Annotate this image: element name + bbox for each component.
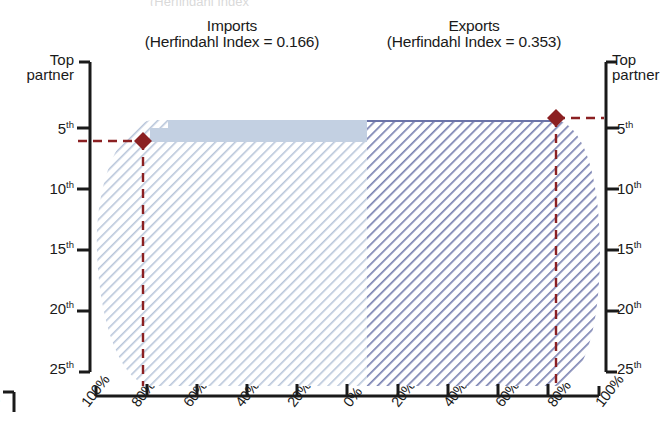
panel-title-exports-line2: (Herfindahl Index = 0.353) bbox=[340, 34, 608, 50]
panel-title-imports-line1: Imports bbox=[98, 18, 366, 34]
y-axis-left-label-top-partner: Top partner bbox=[2, 52, 74, 83]
y-left-5-sup: th bbox=[66, 119, 74, 130]
y-right-25-sup: th bbox=[634, 359, 642, 370]
x-axis-tick-label-3: 40% bbox=[232, 378, 262, 410]
y-right-10-sup: th bbox=[634, 179, 642, 190]
panel-title-exports-line1: Exports bbox=[340, 18, 608, 34]
exports-marker-diamond bbox=[547, 109, 565, 127]
y-axis-right-label-20th: 20th bbox=[617, 300, 670, 316]
x-axis-tick-label-10: 100% bbox=[592, 372, 627, 410]
y-axis-left-spine bbox=[77, 62, 90, 372]
y-left-20-sup: th bbox=[66, 299, 74, 310]
imports-marker-diamond bbox=[134, 132, 152, 150]
y-left-top-line2: partner bbox=[26, 66, 74, 83]
x-axis-tick-label-9: 80% bbox=[544, 378, 574, 410]
panel-title-imports: Imports (Herfindahl Index = 0.166) bbox=[98, 18, 366, 50]
x-axis-tick-label-4: 20% bbox=[284, 378, 314, 410]
x-axis-tick-label-2: 60% bbox=[180, 378, 210, 410]
y-right-top-line2: partner bbox=[612, 66, 660, 83]
y-right-25-num: 25 bbox=[617, 360, 634, 377]
y-axis-right-spine bbox=[606, 62, 619, 372]
imports-solid-staircase bbox=[232, 62, 367, 140]
x-axis-tick-label-5: 0% bbox=[340, 384, 365, 410]
y-left-10-num: 10 bbox=[49, 180, 66, 197]
y-right-20-sup: th bbox=[634, 299, 642, 310]
y-right-5-sup: th bbox=[625, 119, 633, 130]
y-axis-right-label-top-partner: Top partner bbox=[612, 52, 670, 83]
chart-canvas: (Herfindahl Index Imports (Herfindahl In… bbox=[0, 0, 670, 443]
cropped-bracket-fragment bbox=[3, 392, 14, 412]
exports-solid-staircase-steps bbox=[367, 62, 554, 122]
panel-title-exports: Exports (Herfindahl Index = 0.353) bbox=[340, 18, 608, 50]
exports-series-group bbox=[365, 60, 615, 400]
imports-series-group bbox=[90, 60, 370, 400]
cropped-top-text-fragment: (Herfindahl Index bbox=[150, 0, 570, 6]
y-axis-right-label-15th: 15th bbox=[617, 240, 670, 256]
y-left-10-sup: th bbox=[66, 179, 74, 190]
y-axis-left-label-15th: 15th bbox=[2, 240, 74, 256]
x-axis-tick-label-7: 40% bbox=[440, 378, 470, 410]
y-axis-right-label-5th: 5th bbox=[617, 120, 670, 136]
panel-title-imports-line2: (Herfindahl Index = 0.166) bbox=[98, 34, 366, 50]
y-left-5-num: 5 bbox=[58, 120, 66, 137]
y-axis-left-label-25th: 25th bbox=[2, 360, 74, 376]
x-axis-tick-label-1: 80% bbox=[128, 378, 158, 410]
y-axis-right-label-25th: 25th bbox=[617, 360, 670, 376]
x-axis-tick-label-0: 100% bbox=[78, 372, 113, 410]
y-axis-right-label-10th: 10th bbox=[617, 180, 670, 196]
imports-solid-staircase-steps bbox=[150, 62, 367, 142]
y-left-25-sup: th bbox=[66, 359, 74, 370]
y-axis-left-label-20th: 20th bbox=[2, 300, 74, 316]
cropped-bottom-left-text-fragment: 0 bbox=[0, 392, 4, 408]
x-axis-tick-label-6: 20% bbox=[388, 378, 418, 410]
y-left-15-num: 15 bbox=[49, 240, 66, 257]
y-right-20-num: 20 bbox=[617, 300, 634, 317]
y-right-15-sup: th bbox=[634, 239, 642, 250]
y-right-15-num: 15 bbox=[617, 240, 634, 257]
y-left-25-num: 25 bbox=[49, 360, 66, 377]
imports-hatched-region bbox=[90, 60, 370, 400]
y-right-10-num: 10 bbox=[617, 180, 634, 197]
y-left-20-num: 20 bbox=[49, 300, 66, 317]
y-left-15-sup: th bbox=[66, 239, 74, 250]
y-axis-left-label-10th: 10th bbox=[2, 180, 74, 196]
x-axis-tick-label-8: 60% bbox=[492, 378, 522, 410]
y-axis-left-label-5th: 5th bbox=[2, 120, 74, 136]
exports-hatched-region bbox=[365, 60, 615, 400]
